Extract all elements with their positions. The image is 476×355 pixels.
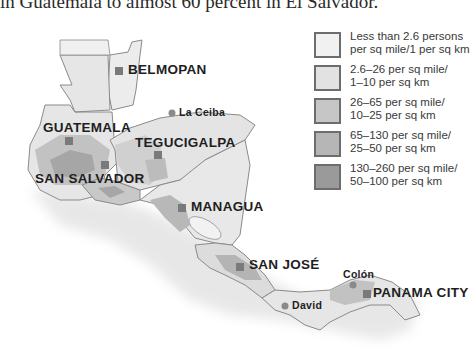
label-belmopan: BELMOPAN bbox=[128, 62, 207, 77]
city-marker-david bbox=[282, 303, 289, 310]
legend-label: 65–130 per sq mile/ 25–50 per sq km bbox=[350, 129, 451, 155]
legend-swatch bbox=[314, 131, 341, 157]
legend-item: Less than 2.6 persons per sq mile/1 per … bbox=[314, 30, 476, 63]
label-la-ceiba: La Ceiba bbox=[179, 106, 225, 118]
label-managua: MANAGUA bbox=[191, 199, 264, 214]
legend-swatch bbox=[314, 164, 341, 190]
legend-label: Less than 2.6 persons per sq mile/1 per … bbox=[350, 30, 470, 56]
capital-marker-belmopan bbox=[115, 67, 123, 75]
city-marker-la-ceiba bbox=[169, 110, 176, 117]
map-legend: Less than 2.6 persons per sq mile/1 per … bbox=[314, 30, 476, 195]
legend-swatch bbox=[314, 32, 341, 58]
capital-marker-managua bbox=[178, 204, 186, 212]
legend-item: 26–65 per sq mile/ 10–25 per sq km bbox=[314, 96, 476, 129]
label-san-jose: SAN JOSÉ bbox=[249, 257, 320, 272]
legend-item: 65–130 per sq mile/ 25–50 per sq km bbox=[314, 129, 476, 162]
legend-swatch bbox=[314, 98, 341, 124]
capital-marker-san-jose bbox=[236, 263, 244, 271]
capital-marker-tegucigalpa bbox=[154, 151, 162, 159]
label-colon: Colón bbox=[343, 268, 374, 280]
legend-label: 130–260 per sq mile/ 50–100 per sq km bbox=[350, 162, 457, 188]
label-san-salvador: SAN SALVADOR bbox=[35, 171, 145, 186]
capital-marker-panama-city bbox=[363, 290, 371, 298]
legend-item: 130–260 per sq mile/ 50–100 per sq km bbox=[314, 162, 476, 195]
region-mexico-edge bbox=[60, 40, 110, 55]
label-tegucigalpa: TEGUCIGALPA bbox=[135, 135, 236, 150]
legend-label: 26–65 per sq mile/ 10–25 per sq km bbox=[350, 96, 445, 122]
legend-swatch bbox=[314, 65, 341, 91]
city-marker-colon bbox=[350, 282, 357, 289]
legend-label: 2.6–26 per sq mile/ 1–10 per sq km bbox=[350, 63, 448, 89]
label-guatemala: GUATEMALA bbox=[43, 120, 131, 135]
label-david: David bbox=[292, 299, 322, 311]
capital-marker-san-salvador bbox=[101, 161, 109, 169]
label-panama-city: PANAMA CITY bbox=[373, 285, 469, 300]
legend-item: 2.6–26 per sq mile/ 1–10 per sq km bbox=[314, 63, 476, 96]
capital-marker-guatemala bbox=[65, 137, 73, 145]
